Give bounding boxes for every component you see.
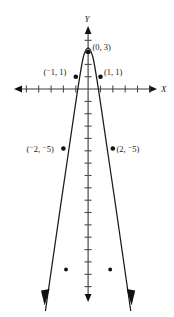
x-axis-left-arrowhead <box>14 86 22 93</box>
curve-right-arrowhead <box>127 289 136 305</box>
y-axis <box>85 26 92 302</box>
x-axis-label: X <box>160 84 167 94</box>
curve-marker-right-tail <box>108 268 112 272</box>
y-axis-ticks <box>85 40 92 286</box>
x-axis <box>14 86 157 93</box>
y-axis-bottom-arrowhead <box>85 294 92 302</box>
data-point-1-1 <box>98 74 103 79</box>
parabola-plot: X Y (0, 3) (⁻1, 1) (1, 1) (⁻2, ⁻5) (2, ⁻… <box>0 0 174 317</box>
point-label-1-1: (1, 1) <box>104 67 123 77</box>
curve-marker-left-tail <box>64 268 68 272</box>
data-point-2-neg5 <box>111 146 116 151</box>
graph-figure: X Y (0, 3) (⁻1, 1) (1, 1) (⁻2, ⁻5) (2, ⁻… <box>0 0 174 317</box>
curve-left-arrowhead <box>41 289 50 305</box>
point-label-2-neg5: (2, ⁻5) <box>117 144 140 154</box>
point-label-0-3: (0, 3) <box>93 42 112 52</box>
data-point-0-3 <box>86 50 91 55</box>
data-point-neg2-neg5 <box>61 146 66 151</box>
data-point-neg1-1 <box>74 74 79 79</box>
point-label-neg2-neg5: (⁻2, ⁻5) <box>27 144 55 154</box>
point-label-neg1-1: (⁻1, 1) <box>44 67 67 77</box>
y-axis-top-arrowhead <box>85 26 92 34</box>
y-axis-label: Y <box>85 14 91 24</box>
